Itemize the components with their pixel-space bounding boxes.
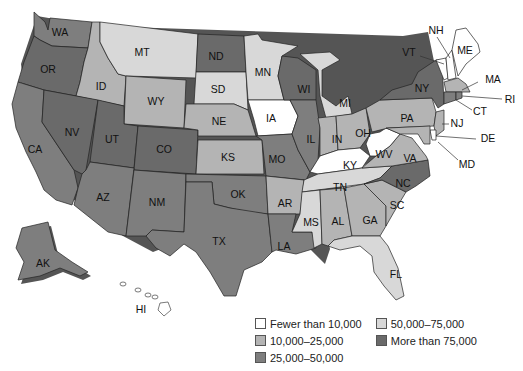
- label-mo: MO: [269, 153, 286, 165]
- label-hi: HI: [136, 303, 147, 315]
- label-oh: OH: [355, 127, 371, 139]
- swatch-white-icon: [255, 318, 266, 329]
- legend-label: 10,000–25,000: [270, 335, 343, 347]
- label-md: MD: [459, 158, 476, 170]
- label-ia: IA: [266, 112, 276, 124]
- label-wy: WY: [148, 95, 165, 107]
- swatch-dark-gray-icon: [255, 352, 266, 363]
- label-ct: CT: [473, 105, 488, 117]
- state-de: [430, 130, 436, 140]
- legend-item-10000-25000: 10,000–25,000: [255, 333, 362, 348]
- label-ga: GA: [362, 214, 377, 226]
- label-il: IL: [307, 133, 316, 145]
- label-ca: CA: [28, 143, 43, 155]
- swatch-darkest-gray-icon: [376, 335, 387, 346]
- label-ut: UT: [105, 133, 120, 145]
- label-ne: NE: [212, 115, 227, 127]
- label-ks: KS: [221, 151, 235, 163]
- label-id: ID: [96, 80, 107, 92]
- label-ky: KY: [343, 159, 357, 171]
- label-ri: RI: [505, 93, 516, 105]
- label-mi: MI: [339, 97, 351, 109]
- label-wa: WA: [52, 26, 69, 38]
- state-ri: [456, 92, 462, 100]
- legend-label: More than 75,000: [391, 335, 477, 347]
- label-sd: SD: [211, 83, 226, 95]
- label-co: CO: [156, 143, 172, 155]
- label-pa: PA: [400, 112, 413, 124]
- label-mt: MT: [134, 46, 150, 58]
- label-nh: NH: [428, 24, 443, 36]
- state-ct: [444, 92, 456, 104]
- legend-item-50000-75000: 50,000–75,000: [376, 316, 477, 331]
- label-ms: MS: [303, 216, 319, 228]
- label-nj: NJ: [451, 117, 464, 129]
- label-in: IN: [332, 133, 343, 145]
- label-va: VA: [403, 152, 416, 164]
- label-ar: AR: [278, 197, 293, 209]
- label-la: LA: [278, 240, 291, 252]
- label-tn: TN: [333, 181, 347, 193]
- label-sc: SC: [390, 199, 405, 211]
- label-ny: NY: [415, 82, 430, 94]
- label-wi: WI: [298, 83, 311, 95]
- label-or: OR: [40, 63, 56, 75]
- label-nv: NV: [65, 126, 80, 138]
- label-wv: WV: [376, 148, 393, 160]
- label-me: ME: [457, 44, 473, 56]
- label-al: AL: [332, 215, 345, 227]
- label-fl: FL: [390, 268, 402, 280]
- label-tx: TX: [212, 235, 225, 247]
- legend-label: Fewer than 10,000: [270, 318, 362, 330]
- label-nm: NM: [149, 196, 165, 208]
- map-legend: Fewer than 10,000 50,000–75,000 10,000–2…: [255, 316, 477, 365]
- label-vt: VT: [402, 46, 416, 58]
- label-ok: OK: [230, 188, 245, 200]
- label-ma: MA: [485, 73, 501, 85]
- label-de: DE: [481, 132, 496, 144]
- legend-item-fewer-than-10000: Fewer than 10,000: [255, 316, 362, 331]
- label-mn: MN: [255, 66, 271, 78]
- swatch-mid-gray-icon: [255, 335, 266, 346]
- legend-item-more-than-75000: More than 75,000: [376, 333, 477, 348]
- legend-label: 25,000–50,000: [270, 352, 343, 364]
- legend-label: 50,000–75,000: [391, 318, 464, 330]
- legend-item-25000-50000: 25,000–50,000: [255, 350, 362, 365]
- swatch-light-gray-icon: [376, 318, 387, 329]
- label-az: AZ: [96, 191, 110, 203]
- label-nd: ND: [208, 50, 224, 62]
- label-ak: AK: [36, 257, 50, 269]
- label-nc: NC: [395, 177, 411, 189]
